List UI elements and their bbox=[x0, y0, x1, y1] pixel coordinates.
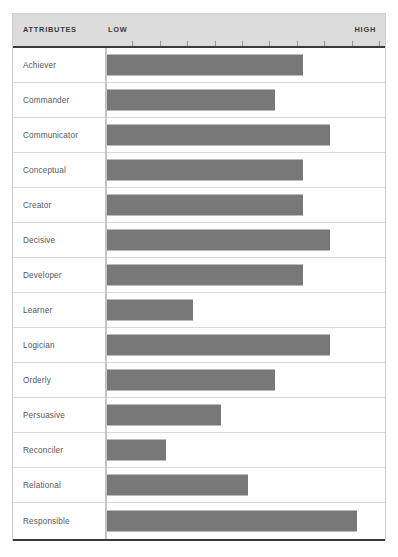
attribute-bar bbox=[106, 125, 330, 146]
header-attributes-label: ATTRIBUTES bbox=[23, 25, 77, 34]
attribute-bar bbox=[106, 265, 303, 286]
chart-row: Reconciler bbox=[13, 433, 385, 468]
attribute-label: Achiever bbox=[23, 61, 56, 70]
attribute-bar bbox=[106, 300, 193, 321]
attribute-label: Creator bbox=[23, 201, 51, 210]
chart-row: Relational bbox=[13, 468, 385, 503]
attribute-label: Commander bbox=[23, 96, 69, 105]
attribute-bar bbox=[106, 195, 303, 216]
attribute-bar bbox=[106, 335, 330, 356]
chart-row: Conceptual bbox=[13, 153, 385, 188]
value-axis-line bbox=[105, 48, 107, 539]
attribute-bar bbox=[106, 405, 221, 426]
chart-row: Learner bbox=[13, 293, 385, 328]
chart-row: Logician bbox=[13, 328, 385, 363]
attribute-bar bbox=[106, 160, 303, 181]
attribute-label: Persuasive bbox=[23, 411, 65, 420]
bottom-axis-rule bbox=[13, 539, 385, 541]
attribute-bar bbox=[106, 440, 166, 461]
chart-row: Creator bbox=[13, 188, 385, 223]
chart-frame: ATTRIBUTES LOW HIGH AchieverCommanderCom… bbox=[12, 13, 386, 541]
attribute-label: Conceptual bbox=[23, 166, 66, 175]
attribute-label: Communicator bbox=[23, 131, 78, 140]
attribute-bar bbox=[106, 55, 303, 76]
attribute-label: Relational bbox=[23, 481, 61, 490]
chart-row: Developer bbox=[13, 258, 385, 293]
chart-header: ATTRIBUTES LOW HIGH bbox=[13, 14, 385, 46]
attribute-label: Logician bbox=[23, 341, 55, 350]
chart-row: Responsible bbox=[13, 503, 385, 538]
attribute-bar bbox=[106, 90, 275, 111]
attribute-label: Developer bbox=[23, 271, 62, 280]
chart-row: Commander bbox=[13, 83, 385, 118]
attribute-bar bbox=[106, 475, 248, 496]
chart-row: Orderly bbox=[13, 363, 385, 398]
attribute-bar bbox=[106, 370, 275, 391]
chart-row: Communicator bbox=[13, 118, 385, 153]
attribute-label: Responsible bbox=[23, 516, 70, 525]
attribute-label: Decisive bbox=[23, 236, 55, 245]
plot-area: AchieverCommanderCommunicatorConceptualC… bbox=[13, 48, 385, 539]
attribute-label: Orderly bbox=[23, 376, 51, 385]
chart-rows: AchieverCommanderCommunicatorConceptualC… bbox=[13, 48, 385, 538]
attribute-label: Reconciler bbox=[23, 446, 63, 455]
chart-row: Persuasive bbox=[13, 398, 385, 433]
axis-low-label: LOW bbox=[108, 25, 128, 34]
chart-row: Decisive bbox=[13, 223, 385, 258]
axis-high-label: HIGH bbox=[355, 25, 376, 34]
chart-row: Achiever bbox=[13, 48, 385, 83]
attribute-label: Learner bbox=[23, 306, 52, 315]
attribute-bar bbox=[106, 510, 357, 531]
attribute-bar bbox=[106, 230, 330, 251]
